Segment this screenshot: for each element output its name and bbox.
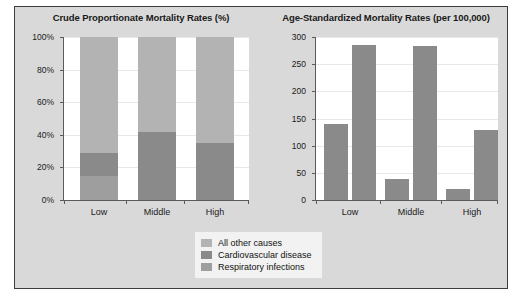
y-tick: 40% (60, 135, 64, 136)
legend-swatch-icon (201, 263, 212, 271)
bar-middle-cardiovascular-disease[interactable] (413, 46, 437, 200)
x-tick (316, 200, 317, 204)
y-axis-label-right: 200 (292, 86, 306, 96)
y-tick: 60% (60, 102, 64, 103)
bar-high-respiratory-infections[interactable] (446, 189, 470, 200)
y-tick: 150 (312, 119, 316, 120)
gridline (316, 64, 498, 65)
chart-title-left: Crude Proportionate Mortality Rates (%) (17, 12, 265, 23)
legend-item-cardiovascular-disease[interactable]: Cardiovascular disease (201, 249, 312, 261)
y-axis-label-left: 80% (37, 65, 54, 75)
gridline (316, 91, 498, 92)
legend-label: Cardiovascular disease (218, 250, 312, 260)
y-tick: 80% (60, 70, 64, 71)
bar-stack-low[interactable] (80, 37, 118, 200)
y-axis-label-right: 0 (301, 195, 306, 205)
chart-legend: All other causes Cardiovascular disease … (195, 232, 322, 278)
gridline (316, 37, 498, 38)
bar-middle-respiratory-infections[interactable] (385, 179, 409, 200)
y-axis-label-left: 40% (37, 130, 54, 140)
y-axis-label-right: 50 (297, 168, 306, 178)
x-axis-label-middle: Middle (144, 207, 171, 217)
legend-item-respiratory-infections[interactable]: Respiratory infections (201, 261, 312, 273)
y-tick: 300 (312, 37, 316, 38)
x-tick (497, 200, 498, 204)
x-axis-label-low: Low (91, 207, 108, 217)
bar-high-cardiovascular-disease[interactable] (474, 130, 498, 200)
x-axis-label-high: High (206, 207, 225, 217)
bar-segment-respiratory-infections (80, 176, 118, 200)
bar-stack-high[interactable] (196, 37, 234, 200)
legend-swatch-icon (201, 239, 212, 247)
y-axis-label-right: 300 (292, 32, 306, 42)
x-tick (441, 200, 442, 204)
bar-segment-cardiovascular-disease (80, 153, 118, 176)
legend-label: All other causes (218, 238, 282, 248)
legend-swatch-icon (201, 251, 212, 259)
y-axis-label-right: 150 (292, 114, 306, 124)
bar-low-respiratory-infections[interactable] (324, 124, 348, 200)
plot-area-left: 100% 80% 60% 40% 20% 0% (63, 37, 249, 201)
y-axis-label-left: 100% (32, 32, 54, 42)
y-axis-label-left: 20% (37, 162, 54, 172)
x-axis-label-low: Low (342, 207, 359, 217)
y-axis-label-left: 0% (42, 195, 54, 205)
y-axis-label-left: 60% (37, 97, 54, 107)
legend-item-all-other-causes[interactable]: All other causes (201, 237, 312, 249)
gridline (316, 119, 498, 120)
y-tick: 100% (60, 37, 64, 38)
bar-low-cardiovascular-disease[interactable] (352, 45, 376, 200)
chart-crude-proportionate-mortality: Crude Proportionate Mortality Rates (%) … (17, 7, 265, 217)
legend-label: Respiratory infections (218, 262, 305, 272)
y-tick: 250 (312, 64, 316, 65)
chart-title-right: Age-Standardized Mortality Rates (per 10… (265, 12, 507, 23)
x-tick (380, 200, 381, 204)
x-tick (64, 200, 65, 204)
x-tick (184, 200, 185, 204)
plot-area-right: 300 250 200 150 100 50 0 (315, 37, 498, 201)
figure-panel: Crude Proportionate Mortality Rates (%) … (14, 6, 508, 289)
y-axis-label-right: 250 (292, 59, 306, 69)
bar-segment-all-other-causes (196, 37, 234, 143)
x-axis-label-middle: Middle (398, 207, 425, 217)
bar-stack-middle[interactable] (138, 37, 176, 200)
y-tick: 50 (312, 173, 316, 174)
y-axis-label-right: 100 (292, 141, 306, 151)
chart-age-standardized-mortality: Age-Standardized Mortality Rates (per 10… (265, 7, 507, 217)
bar-segment-cardiovascular-disease (138, 132, 176, 200)
x-tick (248, 200, 249, 204)
y-tick: 100 (312, 146, 316, 147)
bar-segment-all-other-causes (138, 37, 176, 132)
y-tick: 200 (312, 91, 316, 92)
bar-segment-cardiovascular-disease (196, 143, 234, 200)
x-axis-label-high: High (463, 207, 482, 217)
bar-segment-all-other-causes (80, 37, 118, 153)
y-tick: 20% (60, 167, 64, 168)
x-tick (126, 200, 127, 204)
